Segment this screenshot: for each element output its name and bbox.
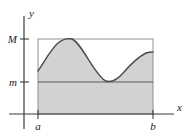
y-tick-label-m: m — [9, 76, 17, 88]
function-bounds-figure: y x M m a b — [0, 0, 188, 133]
x-tick-label-a: a — [35, 120, 41, 132]
y-axis-label: y — [28, 7, 34, 19]
x-tick-label-b: b — [150, 120, 156, 132]
x-axis-label: x — [176, 101, 182, 113]
figure-container: y x M m a b — [0, 0, 188, 133]
y-tick-label-M: M — [7, 33, 18, 45]
shaded-area-below-m-line — [38, 82, 153, 114]
